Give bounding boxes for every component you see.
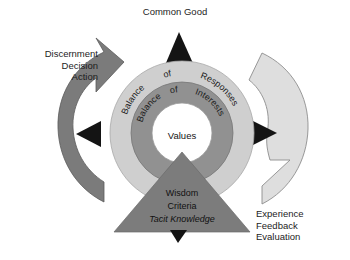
common-good-label: Common Good [0,6,350,18]
left-cycle-line-decision: Decision [6,60,98,72]
right-cycle-line-feedback: Feedback [256,220,348,232]
left-cycle-line-action: Action [6,71,98,83]
left-cycle-label-group: Discernment Decision Action [6,48,98,83]
right-cycle-line-experience: Experience [256,208,348,220]
right-cycle-line-evaluation: Evaluation [256,231,348,243]
left-cycle-line-discernment: Discernment [6,48,98,60]
diagram-canvas: Balance of Responses Balance of Interest… [0,0,350,260]
center-values-label: Values [168,130,197,141]
right-cycle-label-group: Experience Feedback Evaluation [256,208,348,243]
triangle-line-wisdom: Wisdom [166,188,199,198]
pointer-down-icon [170,230,187,243]
triangle-line-criteria: Criteria [167,201,196,211]
pointer-left-icon [76,121,101,147]
triangle-line-tacit-knowledge: Tacit Knowledge [149,214,215,224]
